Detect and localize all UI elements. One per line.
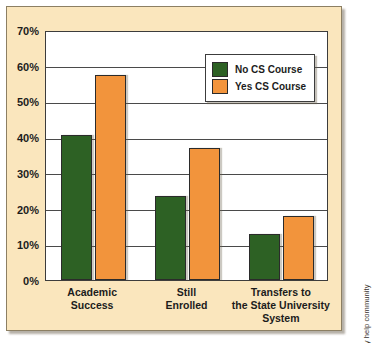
chart-legend: No CS Course Yes CS Course — [205, 54, 315, 102]
x-axis-tick-label-line: the State University — [211, 299, 351, 312]
y-axis-tick-label: 30% — [7, 168, 39, 180]
chart-figure: 70%60%50%40%30%20%10%0% AcademicSuccessS… — [0, 0, 372, 343]
bar — [155, 196, 186, 280]
bar — [283, 216, 314, 280]
legend-item: No CS Course — [212, 62, 306, 77]
bar — [189, 148, 220, 280]
bar — [249, 234, 280, 280]
legend-swatch-yes-cs-course — [212, 79, 228, 94]
y-axis-tick-label: 20% — [7, 204, 39, 216]
y-axis-tick-label: 10% — [7, 239, 39, 251]
y-axis-tick-label: 70% — [7, 25, 39, 37]
source-citation: Zeidenberg, M., Jenkins, D., & Calcagno,… — [362, 339, 371, 343]
legend-item: Yes CS Course — [212, 79, 306, 94]
legend-swatch-no-cs-course — [212, 62, 228, 77]
x-axis-tick-label: Transfers tothe State UniversitySystem — [211, 286, 351, 325]
bar — [95, 75, 126, 280]
x-axis-tick-label-line: Transfers to — [211, 286, 351, 299]
bar — [61, 135, 92, 280]
x-axis-tick-label-line: System — [211, 312, 351, 325]
y-axis-tick-label: 40% — [7, 132, 39, 144]
chart-panel: 70%60%50%40%30%20%10%0% AcademicSuccessS… — [6, 6, 342, 331]
y-axis-tick-label: 50% — [7, 96, 39, 108]
legend-label-yes-cs-course: Yes CS Course — [235, 81, 306, 92]
legend-label-no-cs-course: No CS Course — [235, 64, 302, 75]
y-axis-tick-label: 60% — [7, 61, 39, 73]
